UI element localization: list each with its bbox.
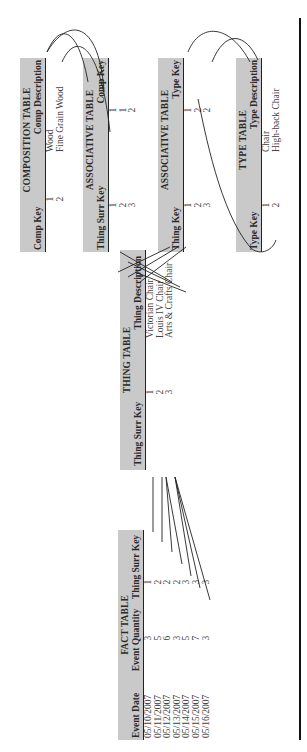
diagram-canvas: FACT TABLE Event Date Event Quantity Thi… [0, 0, 307, 752]
thing-to-associative-connectors [118, 247, 186, 292]
page-rule [299, 18, 301, 740]
fact-to-thing-connectors [153, 477, 210, 600]
relationship-lines [0, 0, 307, 752]
type-to-assoc-connectors [188, 31, 276, 252]
comp-to-assoc-connectors [47, 30, 110, 132]
